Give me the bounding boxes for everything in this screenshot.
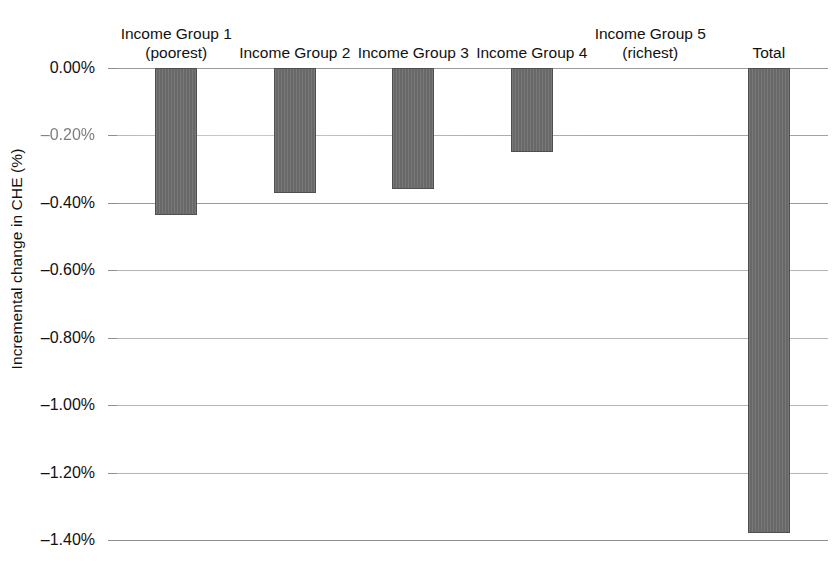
y-tick-mark xyxy=(108,203,117,204)
axis-baseline xyxy=(117,540,828,541)
bar xyxy=(748,68,790,533)
category-label-total: Total xyxy=(679,44,839,62)
y-tick-mark xyxy=(108,135,117,136)
y-tick-mark xyxy=(108,68,117,69)
gridline xyxy=(117,473,828,474)
gridline xyxy=(117,270,828,271)
category-label-line1: Total xyxy=(679,44,839,62)
category-label-row: Income Group 1 (poorest) Income Group 2 … xyxy=(117,0,839,66)
gridline xyxy=(117,68,828,69)
bar-chart: Incremental change in CHE (%) Income Gro… xyxy=(0,0,839,564)
gridline xyxy=(117,405,828,406)
bar xyxy=(392,68,434,189)
y-tick-mark xyxy=(108,338,117,339)
bar xyxy=(155,68,197,215)
category-label-line1: Income Group 5 xyxy=(560,25,740,43)
category-label-line1: Income Group 1 xyxy=(86,25,266,43)
y-tick-label: 0.00% xyxy=(0,60,95,76)
gridline xyxy=(117,338,828,339)
y-tick-label: –0.40% xyxy=(0,195,95,211)
y-tick-mark xyxy=(108,473,117,474)
y-tick-label: –1.00% xyxy=(0,397,95,413)
bar xyxy=(511,68,553,152)
gridline xyxy=(117,135,828,136)
bar xyxy=(274,68,316,193)
y-tick-label: –0.80% xyxy=(0,330,95,346)
y-tick-mark xyxy=(108,540,117,541)
y-tick-label: –0.20% xyxy=(0,127,95,143)
y-tick-mark xyxy=(108,270,117,271)
y-tick-label: –0.60% xyxy=(0,262,95,278)
gridline xyxy=(117,203,828,204)
y-tick-label: –1.20% xyxy=(0,465,95,481)
y-tick-label: –1.40% xyxy=(0,532,95,548)
y-tick-mark xyxy=(108,405,117,406)
y-axis-title: Incremental change in CHE (%) xyxy=(8,94,26,424)
plot-area: 0.00%–0.20%–0.40%–0.60%–0.80%–1.00%–1.20… xyxy=(117,68,828,540)
